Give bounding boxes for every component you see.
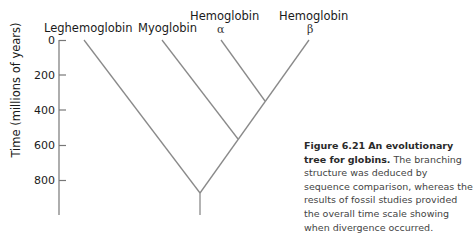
label-hemoglobin-beta: Hemoglobin bbox=[279, 10, 348, 22]
caption-figure-number: Figure 6.21 bbox=[304, 140, 365, 151]
tick-label-0: 0 bbox=[25, 35, 55, 46]
alpha-symbol: α bbox=[217, 24, 224, 35]
label-leghemoglobin: Leghemoglobin bbox=[44, 22, 133, 34]
caption-title-part2: globins. bbox=[348, 154, 391, 165]
beta-symbol: β bbox=[307, 24, 313, 35]
tick-label-400: 400 bbox=[25, 105, 55, 116]
label-myoglobin: Myoglobin bbox=[138, 22, 197, 34]
branch-alpha bbox=[221, 40, 265, 101]
tick-label-600: 600 bbox=[25, 140, 55, 151]
tick-label-800: 800 bbox=[25, 175, 55, 186]
branch-leghemoglobin bbox=[84, 40, 200, 193]
axis-title: Time (millions of years) bbox=[9, 20, 23, 160]
branch-beta-trunk bbox=[200, 40, 309, 193]
caption-body: The branching structure was deduced by s… bbox=[304, 154, 473, 233]
label-hemoglobin-alpha: Hemoglobin bbox=[190, 10, 259, 22]
tick-label-200: 200 bbox=[25, 70, 55, 81]
figure-caption: Figure 6.21 An evolutionary tree for glo… bbox=[304, 139, 474, 234]
branch-myoglobin bbox=[162, 40, 238, 139]
